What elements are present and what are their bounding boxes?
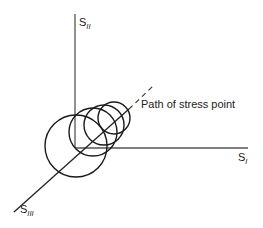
stress-path-diagram: SII SI SIII Path of stress point (0, 0, 263, 228)
axis-label-s1: SI (238, 151, 247, 166)
axis-s3 (14, 109, 129, 212)
circle-2 (69, 108, 117, 156)
axis-label-s3: SIII (20, 203, 34, 218)
circle-4 (98, 102, 130, 134)
circle-1 (45, 115, 107, 177)
annotation-path-of-stress-point: Path of stress point (141, 98, 235, 110)
axis-label-s2: SII (79, 16, 91, 31)
